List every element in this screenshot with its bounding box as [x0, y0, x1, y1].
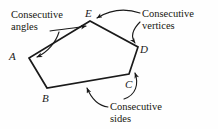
callout-consecutive-vertices: Consecutive vertices [142, 8, 194, 31]
callout-angles-line2: angles [11, 21, 63, 33]
vertex-label-d: D [140, 44, 148, 55]
callout-sides-line2: sides [110, 113, 162, 125]
callout-angles-line1: Consecutive [11, 9, 63, 21]
callout-vertices-line2: vertices [142, 20, 194, 32]
callout-consecutive-angles: Consecutive angles [11, 9, 63, 32]
leader-angles-to-A [37, 32, 59, 57]
vertex-label-c: C [125, 79, 132, 90]
vertex-label-b: B [42, 93, 49, 104]
geometry-figure: A B C D E Consecutive angles Consecutive… [0, 0, 218, 129]
leader-sides-to-BC [87, 88, 108, 107]
vertices-callout-leaders [97, 10, 140, 43]
callout-vertices-line1: Consecutive [142, 8, 194, 20]
callout-sides-line1: Consecutive [110, 101, 162, 113]
vertex-label-e: E [85, 8, 92, 19]
leader-vertices-to-E [97, 10, 140, 18]
callout-consecutive-sides: Consecutive sides [110, 101, 162, 124]
leader-vertices-to-D [133, 22, 140, 43]
vertex-label-a: A [9, 51, 16, 62]
